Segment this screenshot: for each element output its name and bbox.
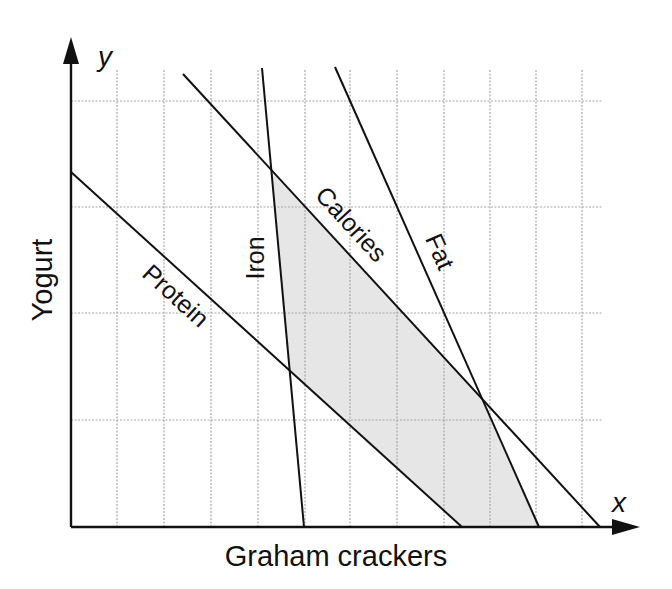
fat-label: Fat <box>420 229 460 273</box>
y-axis-title: Yogurt <box>26 239 58 322</box>
x-axis-arrow-icon <box>612 519 640 535</box>
lp-diagram: y x Graham crackers Yogurt Protein Iron … <box>0 0 672 589</box>
iron-label: Iron <box>241 236 269 279</box>
y-axis-arrow-icon <box>63 37 79 64</box>
protein-label: Protein <box>137 258 214 332</box>
x-axis-title: Graham crackers <box>225 540 447 572</box>
y-axis-variable: y <box>96 41 114 72</box>
x-axis-variable: x <box>610 487 627 518</box>
